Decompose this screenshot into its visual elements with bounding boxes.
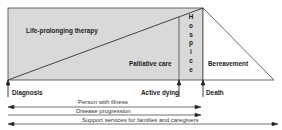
hospice-label: H o s p i c e: [179, 13, 203, 75]
hospice-letter: p: [179, 39, 203, 48]
hospice-letter: i: [179, 48, 203, 57]
bereavement-triangle: [203, 8, 274, 80]
person-with-illness-label: Person with illness: [78, 99, 128, 105]
death-label: Death: [206, 90, 224, 96]
diagnosis-label: Diagnosis: [12, 90, 43, 96]
timeline-support-arrow: [8, 122, 278, 126]
hospice-letter: o: [179, 22, 203, 31]
hospice-letter: e: [179, 66, 203, 75]
active-dying-label: Active dying: [141, 90, 179, 96]
bereavement-label: Bereavement: [208, 61, 248, 67]
life-prolonging-label: Life-prolonging therapy: [26, 28, 98, 34]
support-services-label: Support services for families and caregi…: [82, 117, 198, 123]
disease-progression-label: Disease progression: [76, 108, 131, 114]
hospice-letter: s: [179, 31, 203, 40]
hospice-letter: c: [179, 57, 203, 66]
hospice-letter: H: [179, 13, 203, 22]
palliative-care-label: Palliative care: [129, 61, 172, 67]
